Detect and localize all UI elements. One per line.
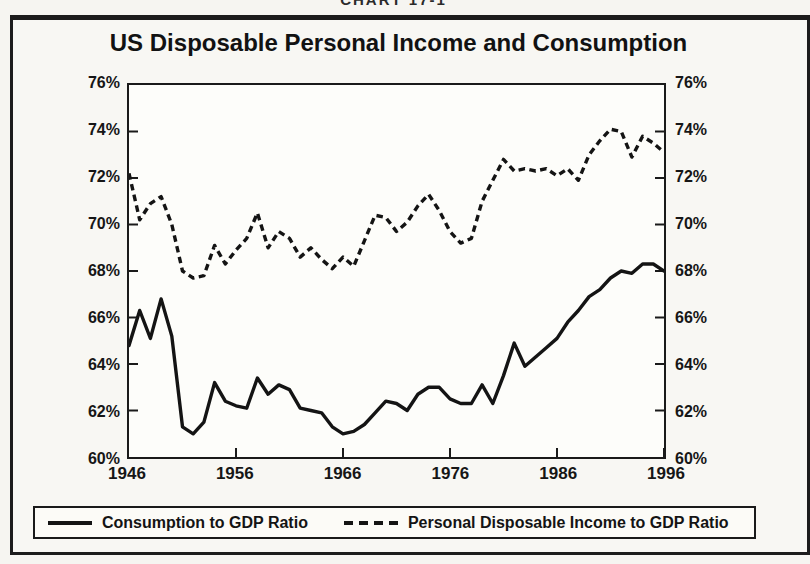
y-axis-label-right: 64% xyxy=(675,355,755,375)
y-axis-label-right: 74% xyxy=(675,120,755,140)
y-axis-label-left: 64% xyxy=(40,355,120,375)
chart-title: US Disposable Personal Income and Consum… xyxy=(13,29,784,57)
legend-label-consumption: Consumption to GDP Ratio xyxy=(102,514,308,532)
figure-caption: CHART 17-1 xyxy=(0,0,787,8)
y-axis-label-left: 70% xyxy=(40,214,120,234)
x-axis-label: 1956 xyxy=(193,464,277,484)
y-axis-label-right: 72% xyxy=(675,167,755,187)
x-axis-label: 1966 xyxy=(301,464,385,484)
y-axis-label-left: 76% xyxy=(40,73,120,93)
y-axis-label-left: 66% xyxy=(40,308,120,328)
x-axis-label: 1976 xyxy=(408,464,492,484)
legend-dashed-line-swatch xyxy=(344,521,398,525)
y-axis-label-left: 72% xyxy=(40,167,120,187)
y-axis-label-right: 70% xyxy=(675,214,755,234)
chart-frame: US Disposable Personal Income and Consum… xyxy=(10,15,810,555)
consumption-line xyxy=(129,264,664,434)
plot-area xyxy=(127,83,666,459)
x-axis-label: 1996 xyxy=(624,464,708,484)
legend: Consumption to GDP Ratio Personal Dispos… xyxy=(33,506,756,539)
x-axis-label: 1946 xyxy=(85,464,169,484)
y-axis-label-left: 68% xyxy=(40,261,120,281)
y-axis-label-right: 66% xyxy=(675,308,755,328)
y-axis-label-right: 68% xyxy=(675,261,755,281)
chart-canvas xyxy=(129,85,664,457)
legend-solid-line-swatch xyxy=(48,521,92,525)
y-axis-label-left: 74% xyxy=(40,120,120,140)
y-axis-label-right: 62% xyxy=(675,402,755,422)
x-axis-label: 1986 xyxy=(516,464,600,484)
y-axis-label-right: 76% xyxy=(675,73,755,93)
y-axis-label-left: 62% xyxy=(40,402,120,422)
income-line xyxy=(129,129,664,278)
legend-label-income: Personal Disposable Income to GDP Ratio xyxy=(408,514,729,532)
